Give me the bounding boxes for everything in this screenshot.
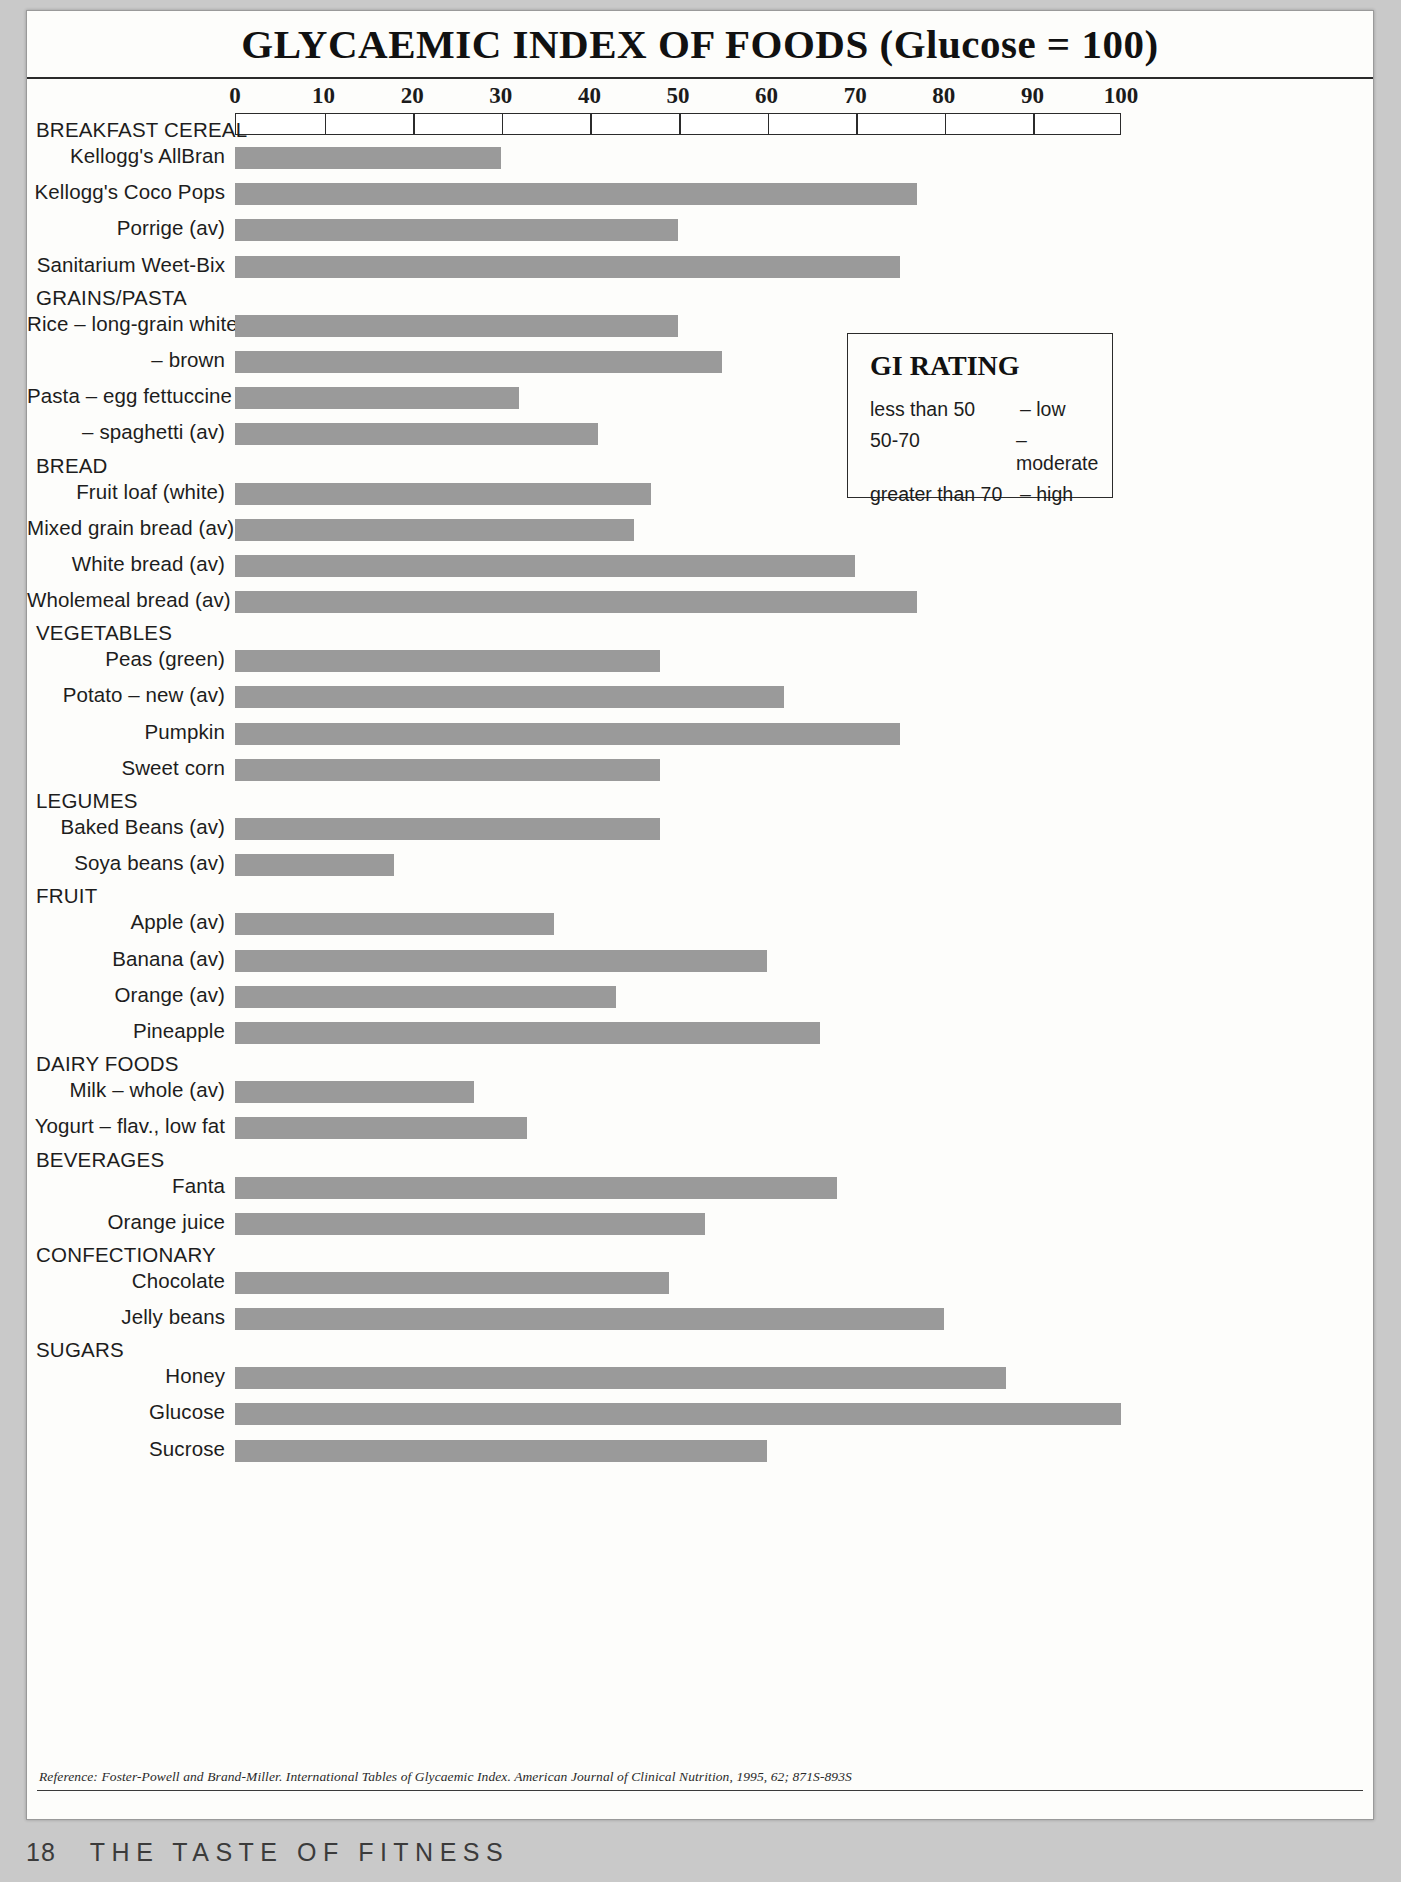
bar-row: Orange juice [27, 1207, 1373, 1243]
axis-divider-30 [502, 114, 504, 134]
bar [235, 256, 900, 278]
bar [235, 1367, 1006, 1389]
bar-row-label: Yogurt – flav., low fat [27, 1114, 225, 1138]
group-heading: CONFECTIONARY [27, 1243, 225, 1267]
bar-track [235, 387, 1373, 409]
bar-row-label: Kellogg's AllBran [27, 144, 225, 168]
bar-track [235, 351, 1373, 373]
bar [235, 183, 917, 205]
bar [235, 818, 660, 840]
group-heading: GRAINS/PASTA [27, 286, 225, 310]
bar [235, 1272, 669, 1294]
axis-divider-50 [679, 114, 681, 134]
legend-range: greater than 70 [870, 483, 1020, 506]
bar-row-label: Potato – new (av) [27, 683, 225, 707]
bar-row: White bread (av) [27, 549, 1373, 585]
bar-track [235, 519, 1373, 541]
bar-track [235, 1403, 1373, 1425]
group-spacer [27, 1148, 1373, 1171]
legend-rating: – moderate [1016, 429, 1112, 475]
bar-track [235, 1177, 1373, 1199]
bar-row-label: Peas (green) [27, 647, 225, 671]
bar-track [235, 950, 1373, 972]
bar-track [235, 986, 1373, 1008]
legend-row: less than 50– low [870, 398, 1112, 421]
x-tick-10: 10 [312, 83, 335, 109]
bar-row-label: Soya beans (av) [27, 851, 225, 875]
legend-row: 50-70– moderate [870, 429, 1112, 475]
bar-track [235, 1081, 1373, 1103]
bar [235, 387, 519, 409]
bar-track [235, 1308, 1373, 1330]
axis-divider-20 [413, 114, 415, 134]
x-tick-20: 20 [401, 83, 424, 109]
bar-row: BEVERAGESFanta [27, 1171, 1373, 1207]
bar-row-label: Fanta [27, 1174, 225, 1198]
bar [235, 351, 722, 373]
bar-row-label: Sanitarium Weet-Bix [27, 253, 225, 277]
bar-track [235, 1117, 1373, 1139]
page-footer: 18 THE TASTE OF FITNESS [26, 1838, 509, 1867]
bar-row-label: Wholemeal bread (av) [27, 588, 225, 612]
group-heading: BEVERAGES [27, 1148, 225, 1172]
bar [235, 1213, 705, 1235]
group-spacer [27, 884, 1373, 907]
bar-row-label: Orange juice [27, 1210, 225, 1234]
bar-row-label: Mixed grain bread (av) [27, 516, 225, 540]
legend-rows: less than 50– low50-70– moderategreater … [870, 398, 1112, 506]
gi-rating-legend: GI RATING less than 50– low50-70– modera… [847, 333, 1113, 498]
bar-row-label: Glucose [27, 1400, 225, 1424]
bar [235, 315, 678, 337]
bar-row-label: Porrige (av) [27, 216, 225, 240]
x-tick-0: 0 [229, 83, 241, 109]
page-number: 18 [26, 1838, 56, 1867]
bar-track [235, 219, 1373, 241]
page-title: GLYCAEMIC INDEX OF FOODS (Glucose = 100) [241, 20, 1158, 68]
bar-row-label: Sweet corn [27, 756, 225, 780]
x-tick-100: 100 [1104, 83, 1139, 109]
bar [235, 950, 767, 972]
group-spacer [27, 621, 1373, 644]
bar-row: DAIRY FOODSMilk – whole (av) [27, 1075, 1373, 1111]
bar-row-label: Rice – long-grain white [27, 312, 225, 336]
bar [235, 650, 660, 672]
bar-row-label: – brown [27, 348, 225, 372]
group-spacer [27, 454, 1373, 477]
bar-row: BREAKFAST CEREALKellogg's AllBran [27, 141, 1373, 177]
bar-row: BREADFruit loaf (white) [27, 477, 1373, 513]
bar [235, 1117, 527, 1139]
chart-title-band: GLYCAEMIC INDEX OF FOODS (Glucose = 100) [27, 11, 1373, 79]
bar [235, 483, 651, 505]
bar-track [235, 256, 1373, 278]
bar-row: Soya beans (av) [27, 848, 1373, 884]
bar-row: Sucrose [27, 1434, 1373, 1470]
bar-row: Yogurt – flav., low fat [27, 1111, 1373, 1147]
legend-row: greater than 70– high [870, 483, 1112, 506]
footer-divider [37, 1790, 1363, 1791]
bar-row: Pasta – egg fettuccine [27, 381, 1373, 417]
bar-row: Potato – new (av) [27, 680, 1373, 716]
bar-row-label: White bread (av) [27, 552, 225, 576]
x-tick-70: 70 [844, 83, 867, 109]
axis-divider-40 [590, 114, 592, 134]
bar-row-label: Milk – whole (av) [27, 1078, 225, 1102]
x-tick-80: 80 [932, 83, 955, 109]
group-heading: SUGARS [27, 1338, 225, 1362]
chart-page: GLYCAEMIC INDEX OF FOODS (Glucose = 100)… [26, 10, 1374, 1820]
group-spacer [27, 1243, 1373, 1266]
x-axis-scale-bar [235, 113, 1121, 135]
bar [235, 219, 678, 241]
legend-title: GI RATING [870, 350, 1112, 382]
bar-track [235, 1022, 1373, 1044]
bar-row: Kellogg's Coco Pops [27, 177, 1373, 213]
bar-row: VEGETABLESPeas (green) [27, 644, 1373, 680]
legend-range: 50-70 [870, 429, 1016, 475]
bar [235, 913, 554, 935]
bar-track [235, 147, 1373, 169]
bar-row-label: Honey [27, 1364, 225, 1388]
group-spacer [27, 1052, 1373, 1075]
bar-track [235, 1440, 1373, 1462]
bar-track [235, 818, 1373, 840]
bar-row: Sweet corn [27, 753, 1373, 789]
bar-track [235, 686, 1373, 708]
